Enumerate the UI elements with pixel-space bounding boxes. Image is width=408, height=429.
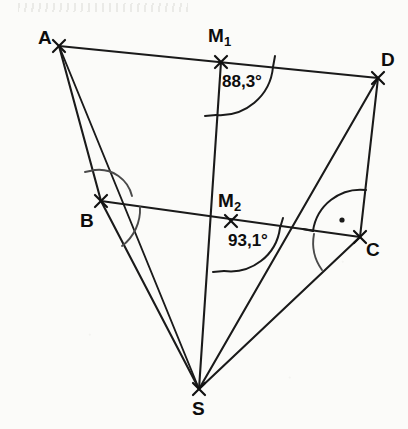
vertex-label-C: C (366, 240, 380, 259)
segment-D-S (199, 78, 378, 389)
segment-A-B (59, 46, 101, 201)
vertex-label-D: D (381, 50, 395, 69)
angle-arc-m1-tick-lower (205, 115, 216, 116)
geometry-figure (0, 0, 408, 429)
segment-M1-M2-S (199, 62, 221, 389)
segment-D-C (360, 78, 378, 237)
angle-label-m2: 93,1° (228, 232, 268, 249)
vertex-label-S: S (192, 399, 205, 418)
angle-arc-m2-tick-lower (213, 271, 224, 272)
vertex-label-A: A (38, 28, 52, 47)
vertex-label-M1-base: M (208, 25, 224, 46)
vertex-label-B: B (80, 211, 94, 230)
right-angle-arc-c (313, 190, 366, 231)
segment-C-S (199, 237, 360, 389)
angle-arc-m1-tick-upper (273, 56, 275, 67)
vertex-marker-M2 (225, 215, 237, 227)
angle-arc-b-outer (95, 170, 132, 196)
vertex-label-M1: M1 (208, 26, 231, 45)
angle-arc-c-lower (313, 234, 322, 270)
vertex-label-M2: M2 (218, 191, 241, 210)
vertex-label-M1-subscript: 1 (224, 34, 231, 49)
segment-B-S (101, 201, 199, 389)
right-angle-dot-icon (339, 217, 344, 222)
figure-canvas: A D B C S M1 M2 88,3° 93,1° (0, 0, 408, 429)
angle-label-m1: 88,3° (222, 73, 262, 90)
vertex-label-M2-subscript: 2 (234, 199, 241, 214)
segment-A-D (59, 46, 378, 78)
vertex-label-M2-base: M (218, 190, 234, 211)
